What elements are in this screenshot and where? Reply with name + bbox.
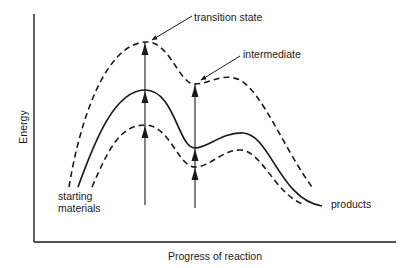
starting-materials-label-line1: starting xyxy=(58,191,92,202)
energy-diagram: transition state intermediate starting m… xyxy=(0,0,418,268)
diagram-canvas xyxy=(0,0,418,268)
transition-state-arrow xyxy=(142,42,149,205)
starting-materials-label-line2: materials xyxy=(58,203,101,214)
y-axis-label: Energy xyxy=(18,107,29,147)
intermediate-label: intermediate xyxy=(243,49,301,60)
intermediate-arrow xyxy=(192,84,199,208)
products-label: products xyxy=(331,199,371,210)
transition-state-pointer xyxy=(152,16,192,40)
lower-dashed-curve xyxy=(92,125,305,205)
intermediate-pointer xyxy=(201,56,240,80)
transition-state-label: transition state xyxy=(194,12,262,23)
solid-curve xyxy=(78,90,322,206)
x-axis-label: Progress of reaction xyxy=(0,251,418,262)
